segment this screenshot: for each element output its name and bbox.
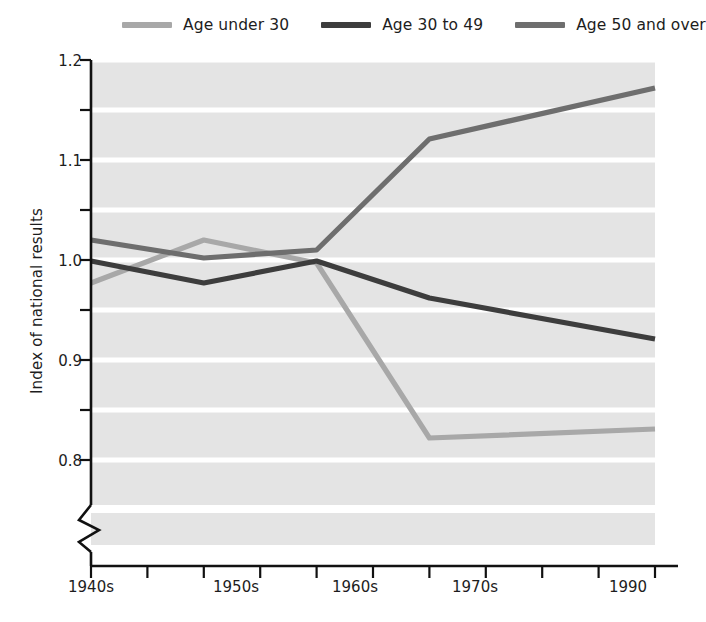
y-axis-ticks (80, 60, 91, 460)
x-axis-ticks (91, 566, 655, 578)
axis-break-gap (91, 505, 678, 513)
plot-background (91, 60, 655, 545)
